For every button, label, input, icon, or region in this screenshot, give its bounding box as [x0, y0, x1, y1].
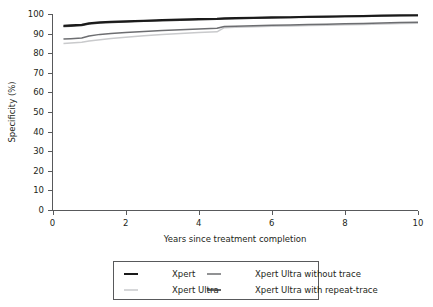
x-tick-label: 6 [269, 218, 274, 228]
y-tick-label: 90 [33, 29, 44, 39]
y-tick-label: 20 [33, 166, 44, 176]
x-tick-label: 8 [342, 218, 347, 228]
chart-figure: 0102030405060708090100 0246810 Specifici… [0, 0, 433, 307]
y-tick-label: 100 [28, 9, 44, 19]
y-tick-label: 80 [33, 48, 44, 58]
legend-label: Xpert [172, 269, 196, 279]
x-tick-label: 0 [50, 218, 55, 228]
y-tick-label: 30 [33, 146, 44, 156]
x-tick-label: 2 [123, 218, 128, 228]
y-tick-label: 0 [39, 205, 44, 215]
legend-label: Xpert Ultra with repeat-trace [255, 285, 378, 295]
x-tick-label: 10 [413, 218, 424, 228]
x-tick-label: 4 [196, 218, 201, 228]
x-axis-title: Years since treatment completion [163, 234, 307, 244]
y-tick-label: 40 [33, 127, 44, 137]
specificity-line-chart: 0102030405060708090100 0246810 Specifici… [0, 0, 433, 307]
y-tick-label: 50 [33, 107, 44, 117]
y-tick-label: 70 [33, 68, 44, 78]
legend-label: Xpert Ultra without trace [255, 269, 361, 279]
y-tick-label: 60 [33, 87, 44, 97]
y-axis-title: Specificity (%) [7, 81, 17, 142]
chart-background [0, 0, 433, 307]
y-tick-label: 10 [33, 185, 44, 195]
